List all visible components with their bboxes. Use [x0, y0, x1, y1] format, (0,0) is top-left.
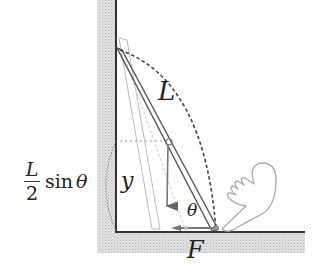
- weight-arrow: [167, 144, 168, 206]
- rod-base-pivot: [214, 226, 219, 231]
- fraction-denominator: 2: [26, 182, 38, 203]
- expression-angle: θ: [76, 172, 87, 191]
- height-label: y: [121, 170, 133, 192]
- rod-length-label: L: [158, 78, 175, 104]
- sin-function: sin: [45, 172, 73, 191]
- force-label: F: [187, 238, 204, 262]
- center-height-expression: L 2 sin θ: [24, 160, 88, 203]
- wall-hatch: [97, 0, 116, 253]
- force-arrowhead: [171, 225, 181, 231]
- diagram-canvas: [0, 0, 318, 280]
- angle-label: θ: [187, 202, 197, 219]
- ghost-base-pivot: [184, 226, 188, 230]
- ghost-rod: [119, 38, 160, 229]
- fraction-numerator: L: [25, 160, 40, 181]
- hand-icon: [222, 163, 276, 231]
- fraction: L 2: [24, 160, 40, 203]
- physics-diagram: L y θ F L 2 sin θ: [0, 0, 318, 280]
